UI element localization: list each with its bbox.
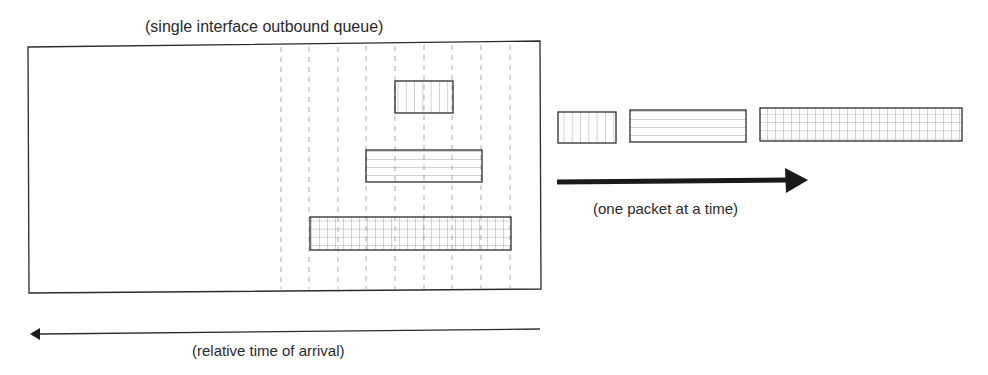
output-packet-medium [630,110,746,142]
arrival-label: (relative time of arrival) [192,342,345,359]
queue-packet-small [395,81,453,113]
queue-packet-medium [366,150,482,182]
queue-title: (single interface outbound queue) [145,18,383,36]
output-label: (one packet at a time) [593,200,738,217]
output-packet-small [558,112,616,143]
queue-packet-large [310,217,511,250]
output-packet-large [760,108,962,141]
output-arrow-icon [557,168,808,193]
queue-diagram [0,0,988,375]
arrival-arrow-icon [30,328,540,340]
